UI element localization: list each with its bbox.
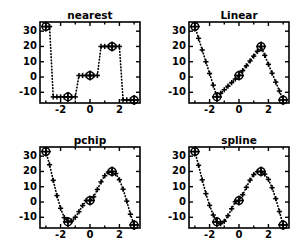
panel-linear-ytick-label: -10 [168,86,186,97]
panel-linear-title: Linear [220,9,258,21]
panel-nearest-ytick-label: 30 [23,25,37,36]
panel-pchip-x-axis: -202 [46,147,134,240]
panel-pchip: pchip-202-100102030 [12,133,150,246]
interpolation-comparison-figure: nearest-202-100102030Linear-202-10010203… [0,0,300,250]
panel-linear-xtick-label: 2 [265,104,272,115]
panel-nearest-ytick-label: 10 [23,56,37,67]
panel-pchip-ytick-label: 10 [23,181,37,192]
panel-linear-knot-markers [190,22,288,105]
panel-nearest-ytick-label: -10 [19,86,37,97]
panel-linear-ytick-label: 10 [172,56,186,67]
panel-nearest-x-axis: -202 [46,22,134,115]
panel-nearest-knot-markers [41,22,139,105]
panel-linear-ytick-label: 0 [179,71,186,82]
panel-pchip-interp-curve [46,152,134,225]
panel-nearest-plot: nearest-202-100102030 [12,8,150,121]
panel-spline-ytick-label: 20 [172,165,186,176]
panel-spline-ytick-label: -10 [168,211,186,222]
panel-pchip-xtick-label: -2 [55,229,66,240]
panel-spline-xtick-label: -2 [204,229,215,240]
panel-spline-plot: spline-202-100102030 [161,133,299,246]
panel-linear-axes-frame [189,22,289,103]
panel-pchip-interp-markers [43,149,136,228]
panel-nearest-title: nearest [67,9,112,21]
panel-pchip-ytick-label: -10 [19,211,37,222]
panel-pchip-plot: pchip-202-100102030 [12,133,150,246]
panel-linear-ytick-label: 20 [172,40,186,51]
panel-nearest-xtick-label: 0 [87,104,94,115]
panel-spline-title: spline [221,134,257,146]
panel-linear-interp-markers [192,24,285,103]
panel-linear-interp-curve [195,27,283,100]
panel-spline-ytick-label: 30 [172,150,186,161]
panel-nearest-xtick-label: 2 [116,104,123,115]
panel-nearest-axes-frame [40,22,140,103]
panel-nearest-ytick-label: 20 [23,40,37,51]
panel-linear-xtick-label: 0 [236,104,243,115]
panel-nearest-interp-curve [46,27,134,100]
panel-spline-xtick-label: 0 [236,229,243,240]
panel-spline-ytick-label: 10 [172,181,186,192]
panel-nearest-interp-markers [43,24,136,103]
panel-nearest-ytick-label: 0 [30,71,37,82]
panel-pchip-ytick-label: 20 [23,165,37,176]
panel-pchip-title: pchip [74,134,107,146]
panel-linear: Linear-202-100102030 [161,8,299,121]
panel-spline-ytick-label: 0 [179,196,186,207]
panel-pchip-xtick-label: 0 [87,229,94,240]
panel-pchip-ytick-label: 0 [30,196,37,207]
panel-spline: spline-202-100102030 [161,133,299,246]
panel-linear-ytick-label: 30 [172,25,186,36]
panel-spline-xtick-label: 2 [265,229,272,240]
panel-pchip-xtick-label: 2 [116,229,123,240]
panel-spline-interp-markers [192,149,285,228]
panel-nearest-xtick-label: -2 [55,104,66,115]
panel-linear-plot: Linear-202-100102030 [161,8,299,121]
panel-pchip-ytick-label: 30 [23,150,37,161]
panel-linear-xtick-label: -2 [204,104,215,115]
panel-nearest: nearest-202-100102030 [12,8,150,121]
